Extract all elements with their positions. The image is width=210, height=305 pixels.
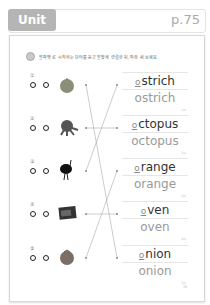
word-trace: onion (122, 263, 188, 279)
word-box: oven oven 4/4 (122, 201, 188, 235)
word-box: orange orange 3/4 (122, 158, 188, 192)
left-dot[interactable] (85, 127, 87, 129)
word-trace: octopus (122, 133, 188, 149)
right-dot[interactable] (116, 213, 118, 215)
word-tag: 3/4 (181, 194, 186, 198)
word-box: ostrich ostrich 1/4 (122, 72, 188, 106)
word-blank-line[interactable]: onion (122, 245, 188, 263)
left-dot[interactable] (85, 84, 87, 86)
word-trace: orange (122, 176, 188, 192)
word-blank-line[interactable]: oven (122, 201, 188, 219)
word-trace: oven (122, 219, 188, 235)
right-dot[interactable] (116, 84, 118, 86)
left-dot[interactable] (85, 213, 87, 215)
right-dot[interactable] (116, 257, 118, 259)
footer-page-number: 75 (183, 285, 187, 289)
word-blank-line[interactable]: orange (122, 158, 188, 176)
word-trace: ostrich (122, 90, 188, 106)
right-dot[interactable] (116, 127, 118, 129)
word-tag: 1/4 (181, 108, 186, 112)
word-tag: 2/4 (181, 151, 186, 155)
word-blank-line[interactable]: octopus (122, 115, 188, 133)
right-dot[interactable] (116, 170, 118, 172)
word-box: octopus octopus 2/4 (122, 115, 188, 149)
word-tag: 4/4 (181, 237, 186, 241)
word-blank-line[interactable]: ostrich (122, 72, 188, 90)
word-box: onion onion 5/4 (122, 245, 188, 279)
left-dot[interactable] (85, 170, 87, 172)
left-dot[interactable] (85, 257, 87, 259)
